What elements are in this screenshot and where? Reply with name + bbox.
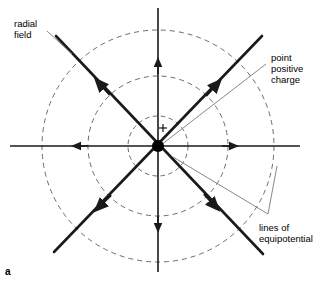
field-arrow-northeast: [206, 84, 217, 96]
leader-line-radial-field: [47, 31, 72, 54]
label-lines-of-equipotential: lines of equipotential: [259, 222, 313, 244]
label-radial-field: radial field: [14, 18, 37, 40]
label-point-positive-charge: point positive charge: [271, 52, 303, 85]
panel-letter: a: [5, 266, 11, 277]
field-arrow-northwest: [99, 83, 110, 95]
point-charge-dot: [152, 140, 164, 152]
plus-icon: [159, 124, 167, 132]
leader-line-equipotential-inner: [173, 157, 268, 214]
radial-field-diagram: radial field point positive charge lines…: [0, 0, 328, 286]
leader-line-point-charge: [161, 64, 266, 145]
field-arrow-southwest: [99, 195, 111, 207]
leader-line-equipotential-outer: [268, 166, 277, 214]
